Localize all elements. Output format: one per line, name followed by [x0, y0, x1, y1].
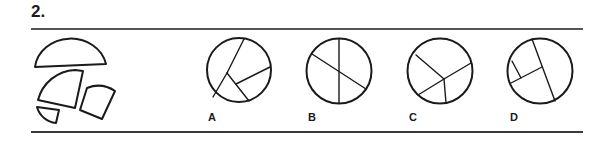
option-a-label[interactable]: A	[208, 111, 216, 123]
piece-group	[35, 39, 115, 123]
puzzle-figure	[0, 0, 610, 142]
option-b-figure[interactable]	[307, 39, 372, 104]
option-d-figure[interactable]	[508, 39, 573, 104]
option-c-figure[interactable]	[408, 39, 473, 104]
option-c-label[interactable]: C	[409, 111, 417, 123]
piece-trapezoid-sector	[80, 86, 115, 119]
piece-small-wedge	[37, 107, 59, 123]
option-b-label[interactable]: B	[308, 111, 316, 123]
piece-large-sector	[38, 70, 83, 108]
piece-semicircle	[35, 39, 106, 67]
option-d-label[interactable]: D	[510, 111, 518, 123]
option-a-figure[interactable]	[207, 38, 271, 102]
